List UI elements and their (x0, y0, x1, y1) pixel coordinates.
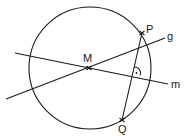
label-p-point: P (146, 23, 153, 35)
right-angle-marker (135, 67, 141, 76)
label-q-point: Q (118, 123, 127, 135)
label-line-m: m (171, 78, 180, 90)
right-angle-dot (136, 72, 138, 74)
label-m-point: M (83, 52, 92, 64)
line-g (6, 38, 165, 99)
geometry-diagram: M P Q g m (0, 0, 187, 136)
chord-pq (122, 33, 142, 120)
label-line-g: g (167, 30, 173, 42)
